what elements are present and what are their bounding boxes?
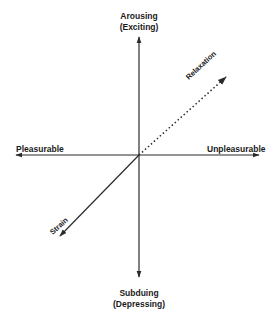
arousing-label-line1: Arousing [100, 11, 178, 22]
subduing-label: Subduing (Depressing) [100, 288, 178, 310]
subduing-label-line1: Subduing [100, 288, 178, 299]
strain-solid-arrow [60, 155, 139, 236]
unpleasurable-label: Unpleasurable [207, 144, 266, 154]
subduing-label-line2: (Depressing) [100, 299, 178, 310]
arousing-label: Arousing (Exciting) [100, 11, 178, 33]
axes-diagram [0, 0, 276, 319]
pleasurable-label: Pleasurable [16, 144, 64, 154]
arousing-label-line2: (Exciting) [100, 22, 178, 33]
